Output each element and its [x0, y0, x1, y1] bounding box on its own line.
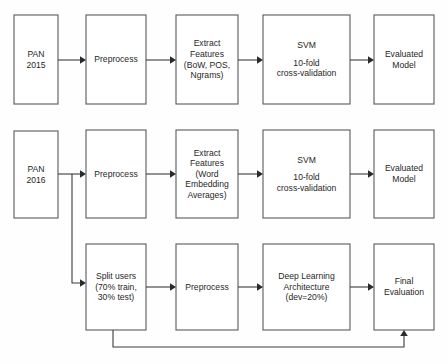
edge-extract-to-svm-2016: [238, 170, 263, 178]
node-deep-learning-architecture[interactable]: [263, 244, 350, 330]
edge-svm-to-evaluated-2016: [350, 170, 374, 178]
node-final-evaluation[interactable]: [374, 244, 434, 330]
node-preprocess-2015[interactable]: [86, 15, 146, 104]
edge-preprocess-to-extract-2015: [146, 56, 176, 64]
edge-pan2016-branch: [58, 170, 86, 287]
flowchart-canvas: PAN 2015 Preprocess Extract Features (Bo…: [0, 0, 448, 364]
node-evaluated-model-2016[interactable]: [374, 130, 434, 218]
edge-extract-to-svm-2015: [238, 56, 263, 64]
node-evaluated-model-2015[interactable]: [374, 15, 434, 104]
node-pan-2016[interactable]: [14, 131, 58, 218]
node-svm-2016[interactable]: [263, 130, 350, 218]
node-svm-2015[interactable]: [263, 15, 350, 104]
edge-svm-to-evaluated-2015: [350, 56, 374, 64]
node-pan-2015[interactable]: [14, 15, 58, 104]
edge-split-to-preprocess-dl: [146, 283, 176, 291]
edge-split-users-feedback-to-final-evaluation: [113, 330, 408, 347]
node-extract-features-2016[interactable]: [176, 130, 238, 218]
node-split-users[interactable]: [86, 244, 146, 330]
flowchart-svg: [0, 0, 448, 364]
node-extract-features-2015[interactable]: [176, 15, 238, 104]
node-preprocess-dl[interactable]: [176, 244, 238, 330]
edge-deep-learning-to-final-evaluation: [350, 283, 374, 291]
node-preprocess-2016[interactable]: [86, 130, 146, 218]
edge-preprocess-to-deep-learning: [238, 283, 263, 291]
edge-pan2015-to-preprocess: [58, 56, 86, 64]
edge-preprocess-to-extract-2016: [146, 170, 176, 178]
